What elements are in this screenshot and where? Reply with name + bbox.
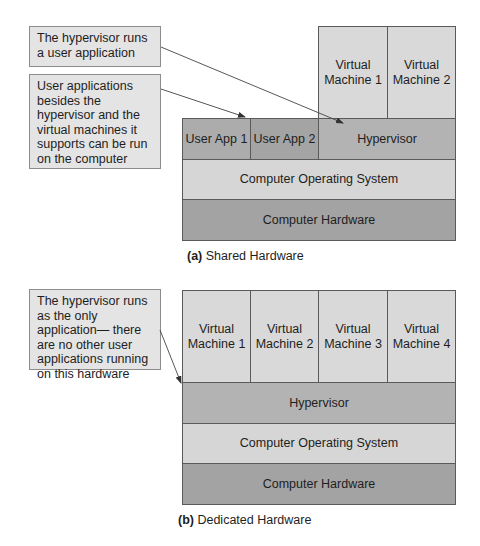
callout-arrows [0, 0, 480, 546]
arrow-to-user-app-icon [161, 89, 245, 117]
arrow-to-hypervisor-b-icon [160, 330, 181, 383]
arrow-to-hypervisor-icon [161, 47, 343, 123]
